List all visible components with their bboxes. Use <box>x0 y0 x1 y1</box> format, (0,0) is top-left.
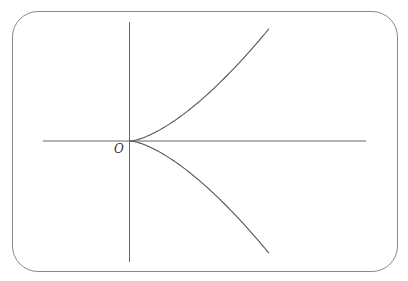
coordinate-plot <box>0 0 408 281</box>
curve-lower-branch <box>130 141 269 253</box>
origin-label: O <box>114 142 124 156</box>
curve-upper-branch <box>130 29 269 141</box>
